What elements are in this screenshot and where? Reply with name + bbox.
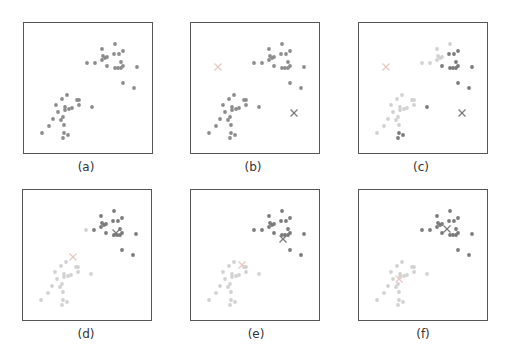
data-point (391, 277, 395, 281)
data-point (454, 60, 458, 64)
data-point (386, 284, 390, 288)
data-point (425, 105, 429, 109)
data-point (229, 131, 233, 135)
caption-c: (c) (391, 160, 451, 174)
data-point (120, 216, 124, 220)
data-point (435, 225, 439, 229)
data-point (229, 290, 233, 294)
data-point (412, 103, 416, 107)
data-point (121, 49, 125, 53)
data-point (228, 303, 232, 307)
data-point (51, 117, 55, 121)
data-point (456, 64, 460, 68)
data-point (76, 270, 80, 274)
data-point (121, 64, 125, 68)
data-point (400, 260, 404, 264)
data-point (279, 52, 283, 56)
data-point (267, 47, 271, 51)
data-point (272, 55, 276, 59)
data-point (47, 124, 51, 128)
caption-d: (d) (56, 327, 116, 341)
data-point (428, 61, 432, 65)
data-point (227, 97, 231, 101)
data-point (84, 228, 88, 232)
data-point (272, 231, 276, 235)
data-point (435, 58, 439, 62)
data-point (214, 291, 218, 295)
data-point (302, 65, 306, 69)
panel-f (358, 189, 488, 321)
data-point (60, 97, 64, 101)
data-point (397, 131, 401, 135)
data-point (53, 270, 57, 274)
data-point (375, 131, 379, 135)
data-point (119, 60, 123, 64)
caption-b: (b) (223, 160, 283, 174)
data-point (54, 103, 58, 107)
data-point (420, 61, 424, 65)
data-point (401, 300, 405, 304)
data-point (63, 108, 67, 112)
data-point (58, 285, 62, 289)
data-point (61, 290, 65, 294)
data-point (226, 118, 230, 122)
data-point (131, 253, 135, 257)
data-point (302, 232, 306, 236)
data-point (66, 133, 70, 137)
data-point (286, 227, 290, 231)
data-point (233, 300, 237, 304)
data-point (229, 123, 233, 127)
data-point (77, 98, 81, 102)
data-point (260, 61, 264, 65)
data-point (396, 136, 400, 140)
data-point (394, 118, 398, 122)
data-point (447, 52, 451, 56)
data-point (120, 231, 124, 235)
data-point (412, 270, 416, 274)
data-point (452, 52, 456, 56)
data-point (105, 64, 109, 68)
data-point (252, 61, 256, 65)
data-point (60, 303, 64, 307)
data-point (452, 219, 456, 223)
data-point (99, 214, 103, 218)
data-point (62, 131, 66, 135)
data-point (412, 265, 416, 269)
data-point (227, 264, 231, 268)
data-point (228, 136, 232, 140)
data-point (400, 93, 404, 97)
data-point (112, 52, 116, 56)
data-point (470, 232, 474, 236)
data-point (77, 103, 81, 107)
panel-c (358, 22, 488, 154)
data-point (223, 277, 227, 281)
data-point (85, 61, 89, 65)
data-point (104, 222, 108, 226)
data-point (288, 248, 292, 252)
data-point (244, 270, 248, 274)
data-point (398, 108, 402, 112)
data-point (391, 110, 395, 114)
data-point (401, 133, 405, 137)
data-point (272, 222, 276, 226)
data-point (288, 216, 292, 220)
data-point (40, 131, 44, 135)
data-point (55, 277, 59, 281)
data-point (232, 260, 236, 264)
scatter-plot (191, 190, 321, 322)
data-point (382, 124, 386, 128)
data-point (104, 231, 108, 235)
data-point (267, 214, 271, 218)
data-point (284, 52, 288, 56)
data-point (59, 264, 63, 268)
data-point (92, 228, 96, 232)
data-point (67, 107, 71, 111)
data-point (100, 58, 104, 62)
data-point (89, 272, 93, 276)
data-point (447, 219, 451, 223)
data-point (99, 225, 103, 229)
data-point (402, 107, 406, 111)
data-point (456, 231, 460, 235)
data-point (93, 61, 97, 65)
data-point (260, 228, 264, 232)
